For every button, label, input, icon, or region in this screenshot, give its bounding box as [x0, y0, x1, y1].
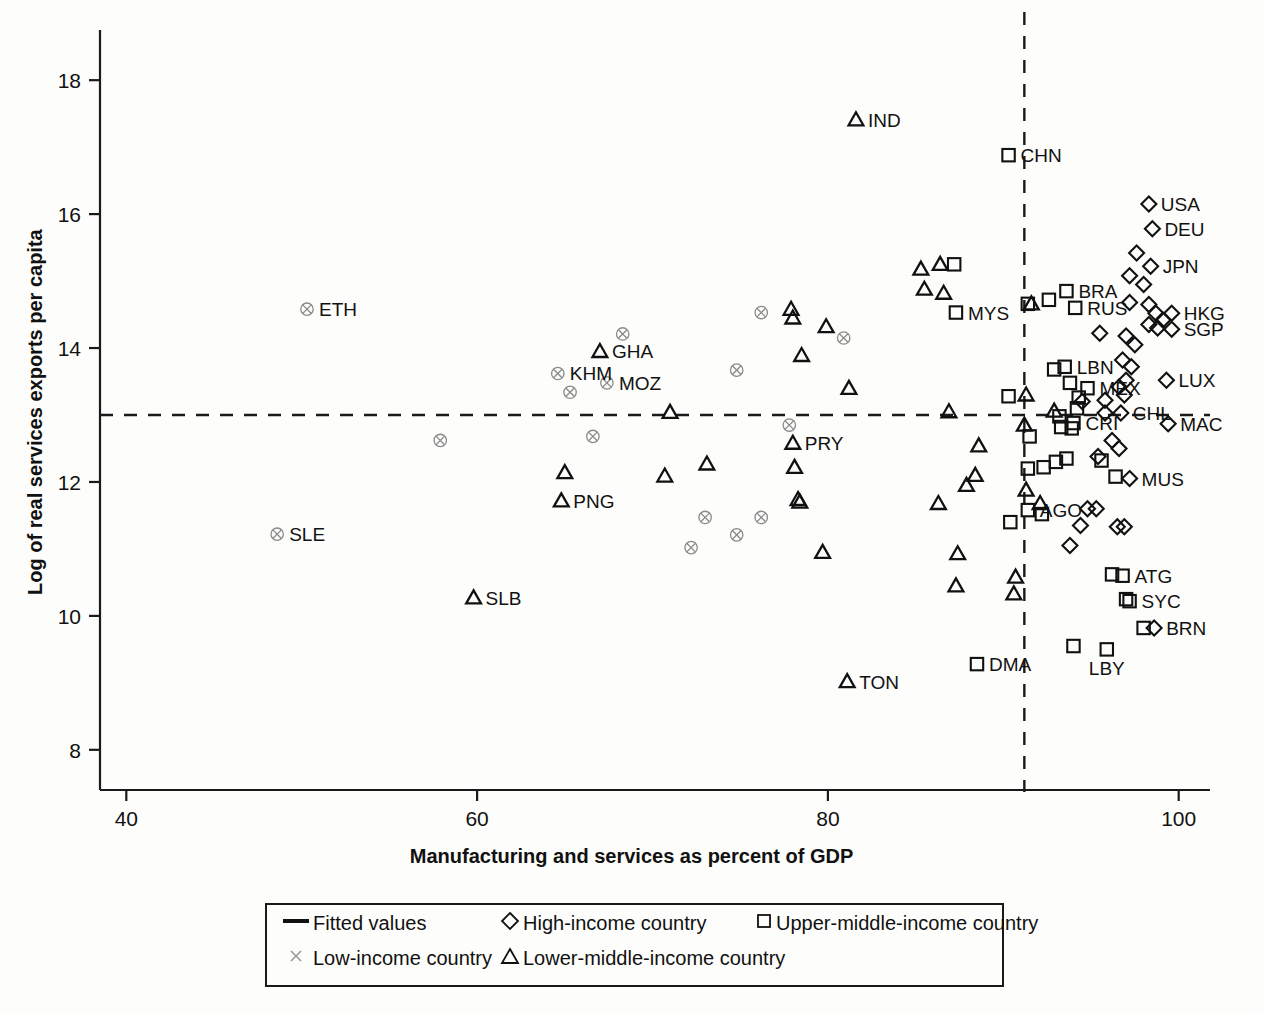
data-point — [842, 381, 857, 394]
point-label-chn: CHN — [1021, 145, 1062, 166]
data-point-gha — [592, 344, 607, 357]
data-point — [730, 529, 742, 541]
y-tick-label: 18 — [58, 69, 81, 92]
y-axis-title: Log of real services exports per capita — [24, 229, 47, 595]
point-label-khm: KHM — [570, 363, 612, 384]
data-point — [1064, 377, 1076, 389]
point-label-chl: CHL — [1133, 403, 1171, 424]
data-point — [1062, 538, 1077, 553]
point-label-mus: MUS — [1142, 469, 1184, 490]
data-point — [933, 257, 948, 270]
data-point-deu — [1145, 221, 1160, 236]
point-label-moz: MOZ — [619, 373, 662, 394]
data-point — [1122, 268, 1137, 283]
point-label-png: PNG — [573, 491, 614, 512]
data-point-khm — [552, 367, 564, 379]
y-tick-label: 8 — [69, 739, 81, 762]
data-point — [1004, 516, 1016, 528]
data-point — [936, 286, 951, 299]
data-point-lby — [1101, 643, 1113, 655]
data-point — [1008, 570, 1023, 583]
data-point — [434, 434, 446, 446]
reference-lines-layer — [100, 12, 1210, 792]
data-point — [557, 465, 572, 478]
square-icon — [752, 912, 776, 934]
data-point — [1067, 640, 1079, 652]
data-point — [755, 306, 767, 318]
point-label-brn: BRN — [1166, 618, 1206, 639]
data-point-mys — [950, 306, 962, 318]
fitted-line-icon — [279, 914, 313, 932]
data-point — [1019, 388, 1034, 401]
data-point-rus — [1069, 302, 1081, 314]
point-label-cri: CRI — [1085, 413, 1118, 434]
data-point — [1109, 470, 1121, 482]
data-point — [837, 332, 849, 344]
data-point — [1129, 245, 1144, 260]
data-point-slb — [466, 590, 481, 603]
point-label-mex: MEX — [1099, 378, 1141, 399]
data-point-pry — [785, 436, 800, 449]
point-label-jpn: JPN — [1163, 256, 1199, 277]
legend: Fitted values High-income country Upper-… — [265, 903, 1004, 987]
data-point-ind — [849, 112, 864, 125]
point-label-mys: MYS — [968, 303, 1009, 324]
legend-item-fitted-values: Fitted values — [279, 912, 497, 935]
data-point-usa — [1141, 197, 1156, 212]
data-point — [950, 546, 965, 559]
data-point — [794, 348, 809, 361]
point-label-sgp: SGP — [1184, 319, 1224, 340]
data-point — [949, 578, 964, 591]
legend-label-high-income: High-income country — [523, 912, 706, 935]
data-point — [1037, 461, 1049, 473]
data-point — [1136, 277, 1151, 292]
point-label-atg: ATG — [1135, 566, 1173, 587]
triangle-icon — [497, 946, 523, 970]
data-point — [787, 460, 802, 473]
data-point — [913, 262, 928, 275]
y-tick-label: 16 — [58, 203, 81, 226]
data-point — [948, 258, 960, 270]
data-point — [1006, 586, 1021, 599]
data-point-jpn — [1143, 259, 1158, 274]
data-point-dma — [971, 658, 983, 670]
data-point — [971, 438, 986, 451]
chart-page: 81012141618406080100 ETHSLEKHMMOZINDGHAP… — [0, 0, 1263, 1014]
data-point — [657, 469, 672, 482]
legend-item-upper-middle-income: Upper-middle-income country — [752, 912, 1038, 935]
data-point-eth — [301, 303, 313, 315]
cross-circle-icon — [279, 946, 313, 970]
point-label-slb: SLB — [486, 588, 522, 609]
x-tick-label: 100 — [1161, 807, 1196, 830]
data-point — [616, 328, 628, 340]
data-point — [1105, 433, 1120, 448]
data-point-chn — [1002, 149, 1014, 161]
point-label-mac: MAC — [1180, 414, 1222, 435]
data-point — [1043, 294, 1055, 306]
point-label-dma: DMA — [989, 654, 1032, 675]
data-points-layer — [271, 112, 1179, 687]
point-label-lux: LUX — [1178, 370, 1215, 391]
data-point-mus — [1122, 471, 1137, 486]
legend-item-high-income: High-income country — [497, 911, 752, 935]
data-point — [730, 364, 742, 376]
point-label-ago: AGO — [1040, 500, 1082, 521]
data-point-png — [554, 493, 569, 506]
data-point — [819, 319, 834, 332]
data-point-bra — [1060, 285, 1072, 297]
data-point — [1115, 353, 1130, 368]
legend-label-lower-middle-income: Lower-middle-income country — [523, 947, 785, 970]
legend-label-fitted-values: Fitted values — [313, 912, 426, 935]
legend-label-low-income: Low-income country — [313, 947, 492, 970]
data-point-lux — [1159, 373, 1174, 388]
data-point-ton — [840, 674, 855, 687]
y-tick-label: 14 — [58, 337, 82, 360]
point-label-eth: ETH — [319, 299, 357, 320]
point-label-ind: IND — [868, 110, 901, 131]
data-point — [1092, 326, 1107, 341]
point-label-pry: PRY — [805, 433, 844, 454]
point-label-gha: GHA — [612, 341, 654, 362]
x-tick-label: 80 — [816, 807, 839, 830]
data-point-hkg — [1164, 306, 1179, 321]
data-point-sle — [271, 528, 283, 540]
